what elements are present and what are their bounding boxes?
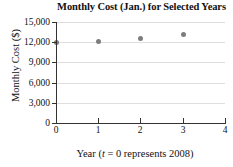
y-tick-label: 0 (0, 118, 50, 128)
x-axis-label-pre: Year ( (76, 148, 101, 159)
y-tick-label: 15,000 (0, 17, 50, 27)
x-tick-label: 0 (44, 125, 68, 135)
gridline-15000 (56, 22, 225, 23)
y-tick-3000 (52, 103, 57, 104)
y-tick-label: 6,000 (0, 78, 50, 88)
x-tick-label: 3 (171, 125, 195, 135)
y-tick-15000 (52, 22, 57, 23)
plot-area (56, 22, 225, 123)
gridline-12000 (56, 42, 225, 43)
chart-container: Monthly Cost (Jan.) for Selected Years M… (0, 0, 233, 167)
y-tick-6000 (52, 83, 57, 84)
x-tick-label: 2 (128, 125, 152, 135)
y-axis-line (56, 22, 57, 123)
x-tick-2 (140, 118, 141, 124)
x-axis-label-post: = 0 represents 2008) (105, 148, 194, 159)
x-tick-label: 1 (86, 125, 110, 135)
data-point (96, 39, 101, 44)
data-point (138, 36, 143, 41)
x-axis-label: Year (t = 0 represents 2008) (40, 148, 230, 159)
x-tick-0 (56, 118, 57, 124)
gridline-9000 (56, 62, 225, 63)
y-tick-label: 3,000 (0, 98, 50, 108)
x-tick-label: 4 (213, 125, 233, 135)
x-tick-4 (225, 118, 226, 124)
gridline-6000 (56, 83, 225, 84)
y-tick-label: 9,000 (0, 57, 50, 67)
y-tick-12000 (52, 42, 57, 43)
data-point (181, 32, 186, 37)
chart-title: Monthly Cost (Jan.) for Selected Years (50, 1, 233, 12)
x-tick-1 (98, 118, 99, 124)
y-tick-label: 12,000 (0, 37, 50, 47)
gridline-3000 (56, 103, 225, 104)
x-tick-3 (183, 118, 184, 124)
y-tick-9000 (52, 62, 57, 63)
